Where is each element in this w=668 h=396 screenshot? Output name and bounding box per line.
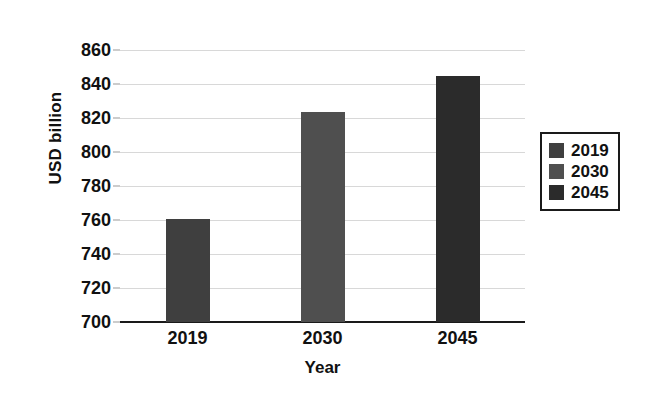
y-tick-label: 800 xyxy=(81,142,111,163)
gridline xyxy=(120,50,525,51)
x-tick-label: 2019 xyxy=(167,328,207,349)
y-tick-mark xyxy=(113,288,120,289)
y-axis-title: USD billion xyxy=(46,38,66,238)
bar xyxy=(301,112,345,322)
legend-item: 2045 xyxy=(549,182,609,203)
legend: 201920302045 xyxy=(540,132,620,211)
legend-item: 2019 xyxy=(549,140,609,161)
y-tick-label: 700 xyxy=(81,312,111,333)
y-tick-label: 840 xyxy=(81,74,111,95)
y-tick-mark xyxy=(113,152,120,153)
y-tick-label: 760 xyxy=(81,210,111,231)
y-tick-mark xyxy=(113,322,120,323)
legend-label: 2019 xyxy=(571,142,609,159)
x-tick-label: 2045 xyxy=(437,328,477,349)
y-tick-mark xyxy=(113,118,120,119)
bar xyxy=(166,219,210,323)
y-tick-mark xyxy=(113,220,120,221)
legend-item: 2030 xyxy=(549,161,609,182)
x-axis-title: Year xyxy=(120,358,525,378)
legend-label: 2030 xyxy=(571,163,609,180)
legend-swatch-icon xyxy=(549,185,564,200)
y-tick-label: 720 xyxy=(81,278,111,299)
bar-chart: USD billion 7007207407607808008208408602… xyxy=(0,0,668,396)
legend-label: 2045 xyxy=(571,184,609,201)
y-tick-label: 820 xyxy=(81,108,111,129)
y-tick-mark xyxy=(113,84,120,85)
legend-swatch-icon xyxy=(549,143,564,158)
legend-swatch-icon xyxy=(549,164,564,179)
y-tick-mark xyxy=(113,50,120,51)
y-tick-label: 740 xyxy=(81,244,111,265)
y-tick-label: 860 xyxy=(81,40,111,61)
y-tick-mark xyxy=(113,254,120,255)
y-tick-mark xyxy=(113,186,120,187)
bar xyxy=(436,76,480,322)
y-tick-label: 780 xyxy=(81,176,111,197)
plot-area: 700720740760780800820840860201920302045 xyxy=(120,42,525,322)
x-tick-label: 2030 xyxy=(302,328,342,349)
